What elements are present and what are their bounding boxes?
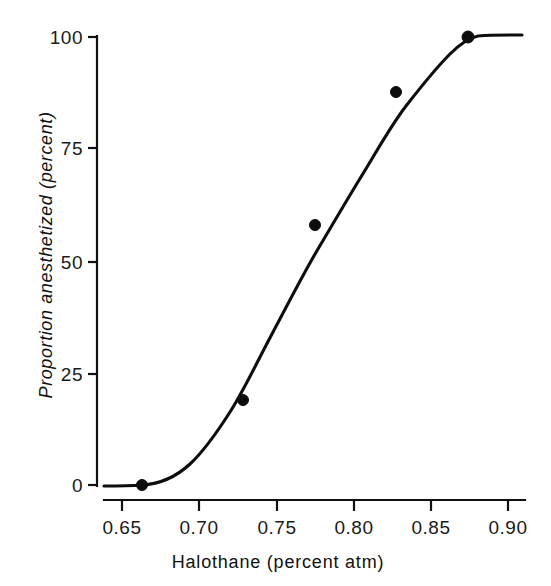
y-tick-label-0: 0: [72, 475, 83, 496]
x-tick-label-0-65: 0.65: [103, 517, 142, 538]
data-point-4: [391, 87, 402, 98]
data-point-1: [137, 480, 148, 491]
dose-response-chart: 100 75 50 25 0 0.65 0.70 0.75 0.80 0.85 …: [0, 0, 551, 586]
y-tick-label-50: 50: [61, 252, 83, 273]
y-tick-label-75: 75: [61, 138, 83, 159]
x-tick-label-0-80: 0.80: [335, 517, 374, 538]
data-point-3: [310, 220, 321, 231]
y-tick-label-25: 25: [61, 364, 83, 385]
data-points: [137, 31, 475, 491]
x-tick-label-0-90: 0.90: [489, 517, 528, 538]
data-point-2: [238, 395, 249, 406]
data-point-5: [462, 31, 474, 43]
y-axis-ticks: [88, 37, 97, 485]
figure-canvas: 100 75 50 25 0 0.65 0.70 0.75 0.80 0.85 …: [0, 0, 551, 586]
x-tick-label-0-85: 0.85: [412, 517, 451, 538]
y-axis-title: Proportion anesthetized (percent): [36, 112, 56, 399]
x-axis-ticks: [122, 500, 508, 511]
x-tick-label-0-70: 0.70: [180, 517, 219, 538]
y-tick-label-100: 100: [50, 27, 83, 48]
x-tick-label-0-75: 0.75: [258, 517, 297, 538]
dose-response-curve: [104, 35, 522, 486]
x-axis-title: Halothane (percent atm): [172, 552, 385, 572]
